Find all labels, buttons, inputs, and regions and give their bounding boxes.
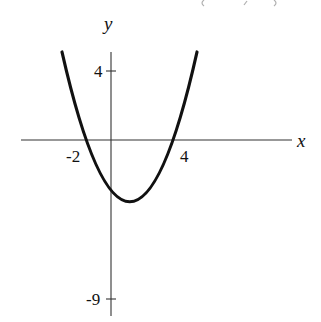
x-axis-label: x [296, 130, 306, 151]
tick-label-y-4: 4 [94, 62, 103, 81]
tick-label-x-neg2: -2 [66, 147, 80, 166]
tick-label-x-4: 4 [180, 147, 189, 166]
graph-canvas: y x 4 -9 -2 4 [0, 0, 321, 322]
top-cropped-text [202, 0, 276, 6]
y-axis-label: y [102, 13, 113, 34]
tick-label-y-neg9: -9 [86, 290, 100, 309]
parabola-curve [62, 52, 197, 202]
